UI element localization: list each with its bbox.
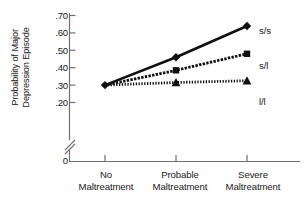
chart-container: Probability of Major Depression Episode … <box>0 0 307 204</box>
y-axis-ticks <box>70 16 76 103</box>
chart-plot-area <box>0 0 307 204</box>
axes-group <box>65 13 300 162</box>
x-axis-ticks <box>105 155 247 162</box>
data-series-group <box>101 22 252 90</box>
